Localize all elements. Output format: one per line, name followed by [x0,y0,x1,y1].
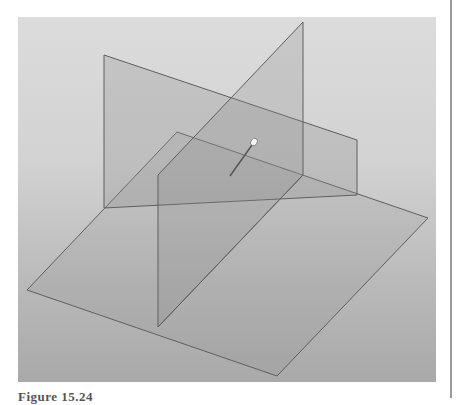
page-margin-rule [450,0,452,398]
figure-caption: Figure 15.24 [18,389,93,405]
